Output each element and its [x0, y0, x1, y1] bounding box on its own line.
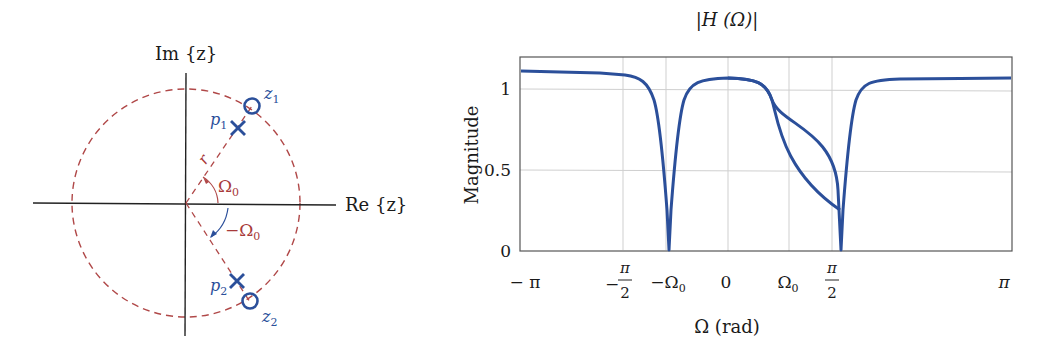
angle-negative-label: −Ω0: [225, 220, 260, 243]
xtick-zero: 0: [721, 272, 732, 292]
y-axis-label: Magnitude: [461, 105, 482, 204]
angle-positive-label: Ω0: [218, 176, 239, 199]
real-axis-label: Re {z}: [345, 194, 407, 215]
xtick-omega0: Ω0: [777, 272, 798, 295]
imag-axis-label: Im {z}: [155, 43, 217, 64]
svg-text:π: π: [826, 259, 838, 277]
pole-zero-plot: Im {z} Re {z} z1 p1 p2 z2 r Ω0 −Ω0: [33, 43, 407, 336]
radius-label: r: [194, 151, 213, 168]
zero1-label: z1: [263, 84, 279, 106]
angle-arrow-negative-icon: [210, 230, 217, 238]
svg-text:2: 2: [620, 284, 630, 302]
svg-text:2: 2: [827, 284, 837, 302]
pole-marker-icon: [231, 121, 245, 135]
pole1-label: p1: [210, 110, 227, 132]
xtick-pi-half: π 2: [825, 259, 839, 302]
imag-axis: [185, 73, 186, 336]
ytick-0: 0: [500, 241, 511, 261]
pole-marker-icon: [230, 274, 244, 288]
zero2-label: z2: [261, 307, 277, 329]
ytick-1: 1: [500, 79, 511, 99]
real-axis: [33, 203, 336, 205]
ytick-0-5: 0.5: [484, 160, 511, 180]
xtick-neg-pi-half: − π 2: [605, 259, 632, 302]
figure-canvas: Im {z} Re {z} z1 p1 p2 z2 r Ω0 −Ω0 |H (Ω…: [0, 0, 1042, 358]
svg-text:−: −: [605, 274, 619, 294]
magnitude-plot: |H (Ω)| 1 0.5 0 Magnitude − π − π 2: [461, 9, 1012, 337]
plot-frame: [520, 57, 1012, 251]
pole2-label: p2: [210, 276, 227, 298]
magnitude-title: |H (Ω)|: [696, 9, 759, 31]
xtick-neg-omega0: −Ω0: [650, 272, 685, 295]
xtick-neg-pi: − π: [510, 272, 541, 292]
zero-marker-icon: [243, 294, 258, 309]
xtick-pi: π: [997, 272, 1010, 292]
svg-text:π: π: [619, 259, 631, 277]
x-axis-label: Ω (rad): [694, 316, 760, 337]
grid: [520, 57, 1012, 251]
